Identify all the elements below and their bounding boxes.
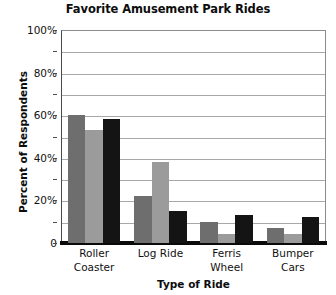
y-tick-label: 100% [5,24,57,36]
y-tick-mark [53,222,57,223]
bar[interactable] [302,217,320,243]
x-tick-label-line: Log Ride [127,247,193,261]
x-tick-label: Log Ride [127,247,193,261]
bar[interactable] [134,196,152,243]
x-tick-label-line: Coaster [61,261,127,275]
y-tick-mark [53,94,57,95]
y-tick-label: 80% [5,67,57,79]
bar-group [127,30,193,243]
y-tick-mark [53,115,57,116]
y-tick-mark [53,30,57,31]
bar-group [194,30,260,243]
bar-chart: Favorite Amusement Park Rides Percent of… [0,0,336,295]
y-tick-label: 20% [5,194,57,206]
bar[interactable] [284,234,302,243]
bar[interactable] [169,211,187,243]
bar[interactable] [152,162,170,243]
y-tick-mark [53,73,57,74]
x-tick-label: BumperCars [260,247,326,274]
y-tick-mark [53,51,57,52]
bar-groups [61,30,326,243]
x-tick-label-line: Cars [260,261,326,275]
bar[interactable] [200,222,218,243]
bar[interactable] [68,115,86,243]
y-tick-label: 40% [5,152,57,164]
x-tick-label: FerrisWheel [194,247,260,274]
bar-group [61,30,127,243]
x-tick-label: RollerCoaster [61,247,127,274]
y-tick-mark [53,243,57,244]
x-tick-label-line: Ferris [194,247,260,261]
bar[interactable] [218,234,236,243]
y-tick-label: 60% [5,109,57,121]
bar[interactable] [267,228,285,243]
x-tick-label-line: Wheel [194,261,260,275]
y-tick-mark [53,179,57,180]
bar-group [260,30,326,243]
y-tick-mark [53,137,57,138]
y-axis-ticks: 020%40%60%80%100% [0,30,57,243]
bar[interactable] [85,130,103,243]
bar[interactable] [235,215,253,243]
bar[interactable] [103,119,121,243]
y-tick-mark [53,200,57,201]
y-tick-label: 0 [5,237,57,249]
x-axis-ticks: RollerCoasterLog RideFerrisWheelBumperCa… [61,247,326,281]
y-tick-mark [53,158,57,159]
x-tick-label-line: Bumper [260,247,326,261]
x-axis-title: Type of Ride [61,278,326,290]
chart-title: Favorite Amusement Park Rides [0,2,336,16]
x-tick-label-line: Roller [61,247,127,261]
